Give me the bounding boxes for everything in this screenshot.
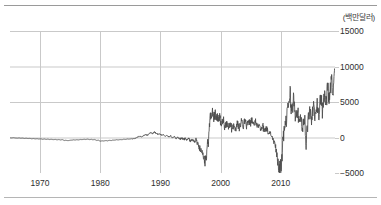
y-axis-tick-mark: [335, 173, 339, 174]
y-axis-tick-label: 5000: [340, 97, 359, 107]
gridlines-group: [10, 31, 335, 173]
y-axis-tick-mark: [335, 67, 339, 68]
line-chart-svg: [10, 31, 335, 173]
x-axis-tick-label: 1990: [151, 178, 170, 188]
y-axis-tick-label: 15000: [340, 26, 364, 36]
series-line: [10, 69, 335, 173]
x-axis-tick-label: 1980: [91, 178, 110, 188]
top-divider-rule: [4, 5, 377, 6]
y-axis-tick-label: 0: [340, 133, 345, 143]
y-axis-tick-mark: [335, 138, 339, 139]
y-axis-unit-label: (백만달러): [343, 11, 375, 22]
bottom-divider-rule: [4, 197, 377, 198]
x-axis-tick-label: 2010: [271, 178, 290, 188]
x-axis-tick-label: 1970: [31, 178, 50, 188]
y-axis-tick-mark: [335, 31, 339, 32]
x-axis-tick-label: 2000: [211, 178, 230, 188]
plot-area: [10, 31, 335, 173]
chart-figure: (백만달러) −5000050001000015000 197019801990…: [0, 0, 381, 205]
data-series-group: [10, 69, 335, 173]
y-axis-tick-label: 10000: [340, 62, 364, 72]
y-axis-tick-label: −5000: [340, 168, 364, 178]
y-axis-tick-mark: [335, 102, 339, 103]
